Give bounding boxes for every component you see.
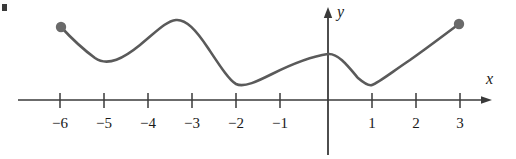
x-axis-label: x — [486, 71, 493, 87]
xtick-label-neg4: −4 — [140, 116, 156, 131]
problem-number-mark — [2, 4, 7, 11]
xtick-label-neg2: −2 — [228, 116, 244, 131]
coordinate-plane — [0, 0, 516, 159]
xtick-label-pos3: 3 — [456, 116, 464, 131]
xtick-label-neg5: −5 — [96, 116, 112, 131]
left-endpoint-dot — [56, 22, 66, 32]
xtick-label-pos1: 1 — [368, 116, 376, 131]
y-axis-arrowhead — [324, 7, 332, 18]
right-endpoint-dot — [454, 19, 464, 29]
y-axis-label: y — [337, 4, 344, 20]
function-curve — [61, 20, 459, 85]
xtick-label-neg6: −6 — [52, 116, 68, 131]
graph-figure: −6 −5 −4 −3 −2 −1 1 2 3 x y — [0, 0, 516, 159]
xtick-label-pos2: 2 — [412, 116, 420, 131]
xtick-label-neg1: −1 — [272, 116, 288, 131]
x-axis-arrowhead — [481, 96, 492, 104]
xtick-label-neg3: −3 — [184, 116, 200, 131]
